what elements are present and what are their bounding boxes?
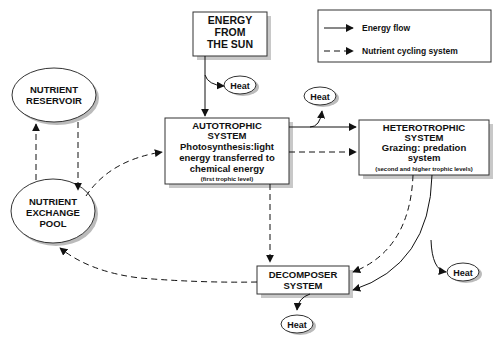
exchange-label-3: POOL <box>40 218 67 229</box>
reservoir-label-2: RESERVOIR <box>26 95 82 106</box>
nutrient-reservoir-node: NUTRIENT RESERVOIR <box>12 68 99 125</box>
heterotrophic-note: (second and higher trophic levels) <box>375 166 473 172</box>
ecosystem-diagram: ENERGY FROM THE SUN Energy flow Nutrient… <box>0 0 503 349</box>
arrow-sun-heat <box>205 75 224 86</box>
sun-label-1: ENERGY <box>208 14 252 26</box>
heat-oval-heterotrophic: Heat <box>447 263 482 283</box>
heterotrophic-node: HETEROTROPHIC SYSTEM Grazing: predation … <box>359 120 493 179</box>
heat-label: Heat <box>287 320 307 330</box>
heterotrophic-desc-2: system <box>408 152 441 163</box>
autotrophic-title-2: SYSTEM <box>207 130 246 141</box>
heat-label: Heat <box>453 268 473 278</box>
exchange-label-1: NUTRIENT <box>29 196 77 207</box>
arrow-autotrophic-heat <box>310 111 322 127</box>
exchange-label-2: EXCHANGE <box>26 207 80 218</box>
heat-oval-decomposer: Heat <box>281 315 316 335</box>
sun-label-3: THE SUN <box>207 38 253 50</box>
decomposer-title: DECOMPOSER <box>269 269 338 280</box>
arrow-heterotrophic-heat <box>431 240 446 272</box>
autotrophic-note: (first trophic level) <box>201 176 253 182</box>
sun-label-2: FROM <box>215 26 246 38</box>
sun-node: ENERGY FROM THE SUN <box>193 12 271 60</box>
legend-nutrient-cycling: Nutrient cycling system <box>362 46 458 56</box>
legend-energy-flow: Energy flow <box>362 23 411 33</box>
autotrophic-desc-3: chemical energy <box>190 163 265 174</box>
heat-label: Heat <box>310 92 330 102</box>
autotrophic-desc-1: Photosynthesis:light <box>180 141 275 152</box>
decomposer-title-2: SYSTEM <box>283 280 322 291</box>
heat-oval-sun: Heat <box>224 76 259 96</box>
arrow-heterotrophic-to-decomposer <box>353 175 432 290</box>
reservoir-label-1: NUTRIENT <box>30 84 78 95</box>
dashed-decomposer-to-exchange <box>60 248 257 282</box>
autotrophic-node: AUTOTROPHIC SYSTEM Photosynthesis:light … <box>165 118 293 188</box>
heat-oval-autotrophic: Heat <box>304 87 339 107</box>
autotrophic-desc-2: energy transferred to <box>179 152 275 163</box>
decomposer-node: DECOMPOSER SYSTEM <box>257 266 353 298</box>
heat-label: Heat <box>230 81 250 91</box>
legend: Energy flow Nutrient cycling system <box>318 10 491 62</box>
dashed-exchange-to-autotrophic <box>86 152 162 196</box>
nutrient-exchange-pool-node: NUTRIENT EXCHANGE POOL <box>11 179 98 246</box>
